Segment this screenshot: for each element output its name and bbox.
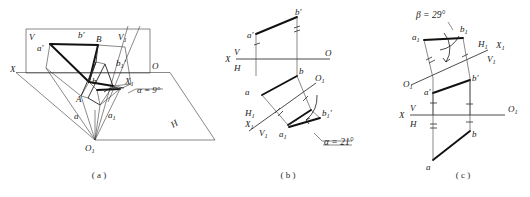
angle-beta-leader-c	[440, 22, 459, 62]
label-axis-o-a: O	[152, 61, 159, 71]
label-point-b-prime-c: b'	[472, 73, 480, 83]
label-point-B-a: B	[96, 34, 102, 44]
view-v-c	[433, 78, 470, 115]
label-axis-o1-b: O1	[315, 73, 325, 84]
label-point-a1-c: a1	[412, 32, 420, 43]
label-axis-o1-a: O1	[85, 143, 95, 154]
label-axis-x1-c: X1	[495, 40, 505, 51]
panel-a: V H V1 X O X1 O1 B A b' a' a b a1 b1' α …	[9, 26, 215, 180]
figure-canvas: V H V1 X O X1 O1 B A b' a' a b a1 b1' α …	[0, 0, 530, 197]
label-point-b-a: b	[92, 76, 97, 86]
label-plane-h-c: H	[409, 119, 417, 129]
label-axis-v1-b: V1	[259, 128, 268, 139]
label-plane-h-b: H	[233, 63, 241, 73]
label-point-a-prime-c: a'	[424, 87, 432, 97]
label-axis-x1-b: X1	[244, 119, 254, 130]
label-point-b-c: b	[472, 129, 477, 139]
caption-b: ( b )	[281, 170, 296, 180]
view-v-b	[256, 17, 297, 76]
label-angle-beta-c: β = 29°	[415, 10, 445, 20]
label-axis-h1-b: H1	[244, 108, 255, 119]
label-axis-o-right-c: O1	[508, 104, 518, 115]
axis-x1o1-b	[249, 83, 316, 131]
label-point-a-b: a	[245, 87, 250, 97]
label-point-b-b: b	[299, 66, 304, 76]
caption-a: ( a )	[92, 170, 107, 180]
label-point-A-a: A	[75, 94, 82, 104]
panel-b: X V H O a b a' b' X1 V1 H1 O1 a1 b1' α =…	[224, 7, 354, 180]
plane-h-outline	[16, 73, 215, 141]
label-point-b1-c: b1	[460, 24, 468, 35]
view-aux-b	[288, 110, 320, 127]
label-axis-x-c: X	[398, 110, 405, 120]
label-point-a-a: a	[74, 111, 79, 121]
label-point-a-c: a	[426, 162, 431, 172]
plane-v-outline	[26, 29, 150, 73]
caption-c: ( c )	[456, 170, 471, 180]
label-point-a1-a: a1	[108, 110, 116, 121]
label-plane-v-a: V	[29, 32, 36, 42]
label-axis-v1-c: V1	[487, 54, 496, 65]
label-plane-v1-a: V1	[118, 32, 127, 43]
view-h-c	[433, 115, 470, 160]
view-aux-c	[424, 38, 470, 78]
label-angle-alpha-b: α = 21°	[324, 137, 354, 147]
panel-c: β = 29° a1 b1 H1 X1 V1 O1 a' b' X V H O1…	[398, 10, 518, 180]
label-axis-h1-c: H1	[477, 39, 488, 50]
label-point-a-prime-b: a'	[247, 30, 255, 40]
label-point-a-prime-a: a'	[37, 43, 45, 53]
label-angle-alpha-a: α = 9°	[137, 85, 161, 95]
label-plane-h-a: H	[168, 118, 180, 131]
label-axis-o1-c: O1	[403, 79, 413, 90]
label-axis-o-b: O	[325, 48, 332, 58]
label-axis-x-a: X	[9, 64, 16, 74]
label-point-b1-prime-b: b1'	[322, 108, 333, 119]
label-point-b-prime-b: b'	[295, 7, 303, 17]
label-point-b1-prime-a: b1'	[116, 58, 127, 69]
label-plane-v-c: V	[410, 103, 417, 113]
label-point-b-prime-a: b'	[78, 30, 86, 40]
label-plane-v-b: V	[234, 47, 241, 57]
label-axis-x1-a: X1	[124, 76, 134, 87]
label-axis-x-b: X	[224, 54, 231, 64]
label-point-a1-b: a1	[279, 129, 287, 140]
